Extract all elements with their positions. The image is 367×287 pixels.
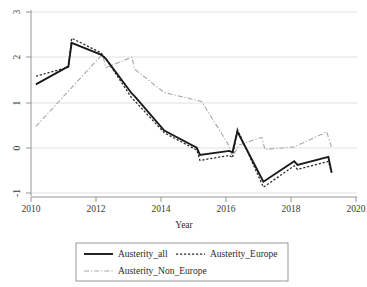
y-tick-label-3: 3 — [12, 9, 22, 14]
legend-label-austerity-all: Austerity_all — [118, 249, 168, 259]
x-tick-label-2010: 2010 — [22, 204, 41, 214]
x-tick-label-2018: 2018 — [282, 204, 301, 214]
chart-container: 3 2 1 0 -1 2010 2012 2014 2016 2018 2020… — [0, 0, 367, 287]
chart-legend: Austerity_all Austerity_Europe Austerity… — [76, 243, 288, 281]
y-tick-label-1: 1 — [12, 100, 22, 105]
y-tick-label-neg1: -1 — [12, 189, 22, 197]
x-axis: 2010 2012 2014 2016 2018 2020 Year — [22, 197, 366, 230]
series-group — [36, 38, 332, 187]
legend-label-austerity-non-europe: Austerity_Non_Europe — [118, 266, 207, 276]
x-tick-label-2012: 2012 — [87, 204, 106, 214]
x-tick-label-2016: 2016 — [217, 204, 236, 214]
x-tick-label-2020: 2020 — [347, 204, 366, 214]
x-axis-title: Year — [175, 220, 193, 230]
series-line-austerity-all — [36, 43, 332, 182]
line-chart-svg: 3 2 1 0 -1 2010 2012 2014 2016 2018 2020… — [0, 0, 367, 287]
gridlines — [31, 12, 357, 193]
y-axis: 3 2 1 0 -1 — [12, 9, 31, 197]
x-tick-label-2014: 2014 — [152, 204, 171, 214]
y-tick-label-2: 2 — [12, 54, 22, 59]
legend-label-austerity-europe: Austerity_Europe — [210, 249, 278, 259]
y-tick-label-0: 0 — [12, 145, 22, 150]
